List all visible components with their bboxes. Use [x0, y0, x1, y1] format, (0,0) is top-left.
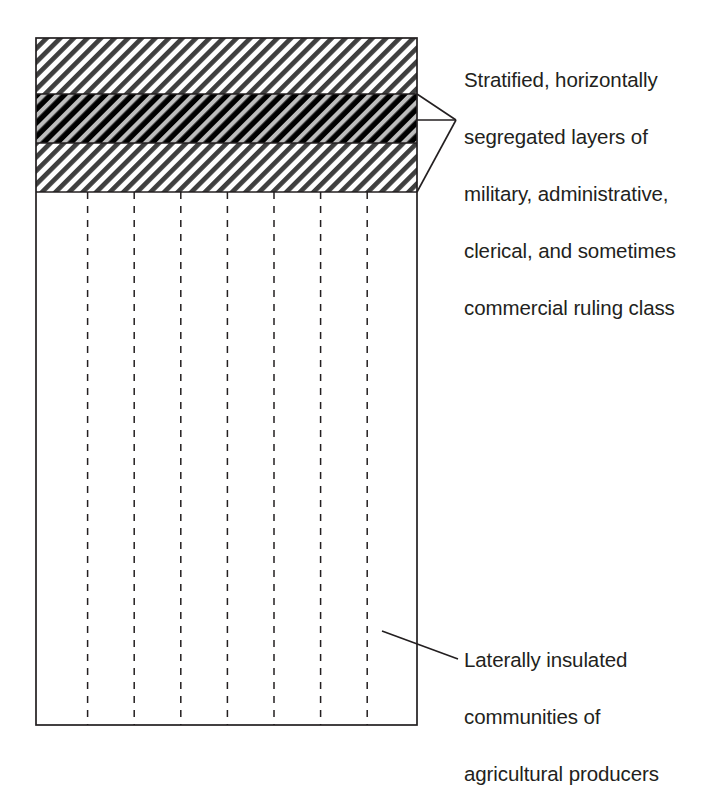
- band-producer-region: [36, 192, 417, 725]
- agricultural-line-2: communities of: [464, 703, 716, 732]
- bracket-lower-arm: [417, 120, 456, 192]
- ruling-class-line-1: Stratified, horizontally: [464, 66, 716, 95]
- ruling-class-line-3: military, administrative,: [464, 180, 716, 209]
- agricultural-annotation: Laterally insulated communities of agric…: [464, 617, 716, 789]
- agricultural-line-3: agricultural producers: [464, 760, 716, 789]
- bracket-upper-arm: [417, 94, 456, 120]
- band-upper-ruling: [36, 38, 417, 94]
- band-middle-ruling: [36, 94, 417, 143]
- agricultural-line-1: Laterally insulated: [464, 646, 716, 675]
- band-lower-ruling: [36, 143, 417, 192]
- ruling-class-bracket-arrow: [417, 94, 456, 192]
- ruling-class-line-5: commercial ruling class: [464, 294, 716, 323]
- ruling-class-annotation: Stratified, horizontally segregated laye…: [464, 37, 716, 352]
- ruling-class-line-4: clerical, and sometimes: [464, 237, 716, 266]
- ruling-class-line-2: segregated layers of: [464, 123, 716, 152]
